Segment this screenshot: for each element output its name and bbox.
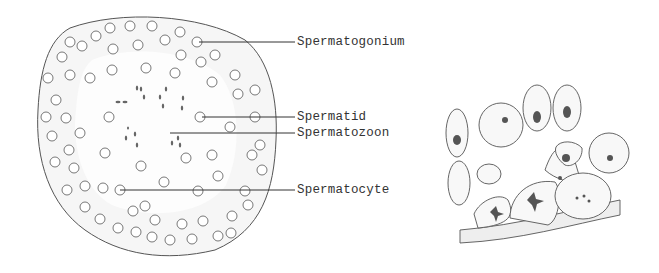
- label-spermatozoon: Spermatozoon: [297, 126, 389, 140]
- label-spermatocyte: Spermatocyte: [297, 183, 389, 197]
- label-spermatid: Spermatid: [297, 110, 366, 124]
- label-spermatogonium: Spermatogonium: [297, 35, 405, 49]
- detail-panel: [446, 85, 629, 243]
